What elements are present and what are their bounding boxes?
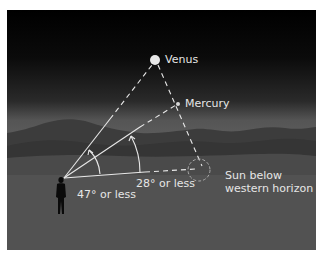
venus-icon (150, 55, 160, 65)
angle-label-mercury: 28° or less (136, 178, 195, 190)
diagram-frame: Venus Mercury 47° or less 28° or less Su… (7, 10, 316, 250)
angle-label-venus: 47° or less (77, 189, 136, 201)
sun-label-line1: Sun below (225, 170, 282, 182)
sun-label-line2: western horizon (225, 183, 313, 195)
diagram-canvas (7, 10, 316, 250)
venus-label: Venus (165, 54, 198, 66)
mercury-label: Mercury (185, 98, 230, 110)
mercury-icon (176, 102, 180, 106)
